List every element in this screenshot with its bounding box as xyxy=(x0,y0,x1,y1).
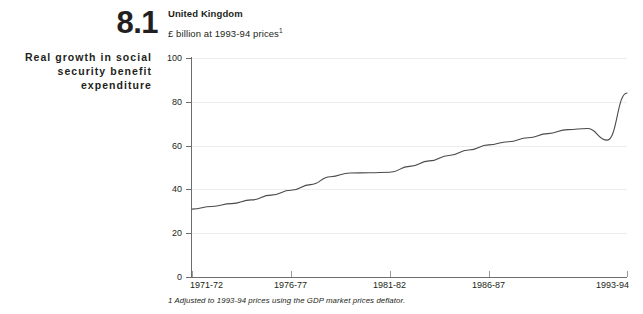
series-line-path xyxy=(192,93,627,209)
chart-footnote: 1 Adjusted to 1993-94 prices using the G… xyxy=(168,296,405,305)
series-line-chart xyxy=(0,0,643,314)
figure-page: 8.1 Real growth in social security benef… xyxy=(0,0,643,314)
chart-region: United Kingdom £ billion at 1993-94 pric… xyxy=(0,0,643,314)
